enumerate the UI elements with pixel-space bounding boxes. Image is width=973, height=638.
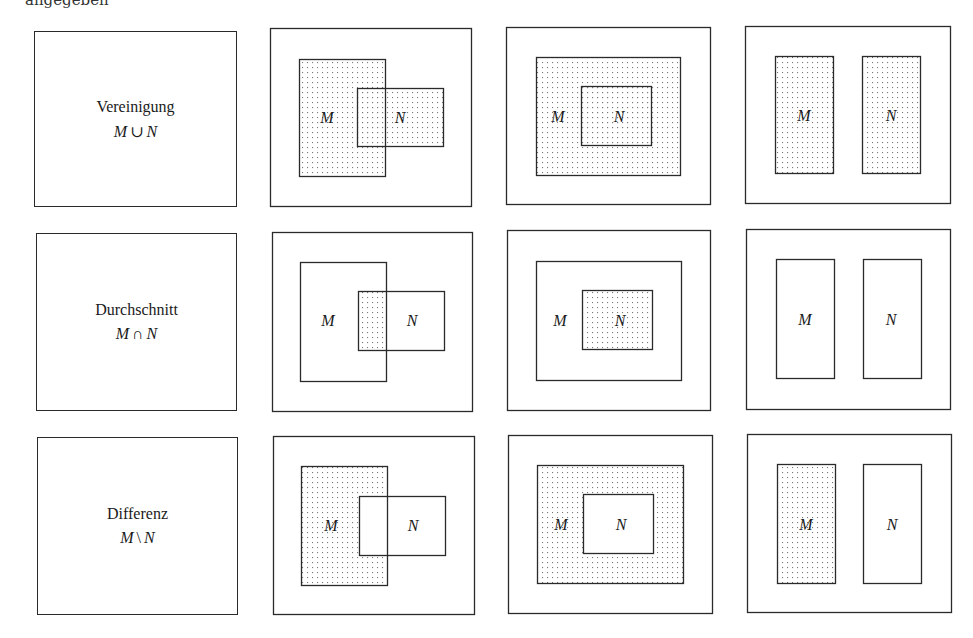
set-label-m: M [323, 517, 339, 534]
set-label-n: N [886, 516, 899, 533]
set-label-m: M [320, 312, 336, 329]
set-label-n: N [615, 516, 628, 533]
set-label-m: M [553, 516, 569, 533]
venn-diagram-grid: MNMNMNMNMNMNMNMNMN [0, 0, 973, 638]
venn-diagram-difference-overlap: MN [273, 436, 475, 615]
shaded-region-intersection [358, 291, 386, 350]
set-label-m: M [550, 108, 566, 125]
set-label-m: M [319, 109, 335, 126]
venn-diagram-intersection-subset: MN [507, 230, 711, 411]
venn-diagram-intersection-overlap: MN [272, 232, 473, 412]
set-label-n: N [885, 107, 898, 124]
set-label-n: N [613, 108, 626, 125]
set-label-n: N [885, 311, 898, 328]
set-label-n: N [614, 312, 627, 329]
set-label-n: N [406, 312, 419, 329]
set-label-m: M [552, 312, 568, 329]
set-label-n: N [407, 517, 420, 534]
venn-diagram-union-subset: MN [506, 27, 711, 205]
venn-diagram-difference-subset: MN [508, 435, 713, 614]
venn-diagram-union-overlap: MN [270, 28, 472, 207]
set-label-m: M [798, 516, 814, 533]
venn-diagram-union-disjoint: MN [745, 26, 951, 204]
venn-diagram-difference-disjoint: MN [747, 434, 952, 613]
set-label-n: N [394, 109, 407, 126]
venn-diagram-intersection-disjoint: MN [746, 229, 951, 410]
set-label-m: M [797, 311, 813, 328]
set-label-m: M [796, 107, 812, 124]
unshaded-region-n-in-m [359, 496, 387, 555]
